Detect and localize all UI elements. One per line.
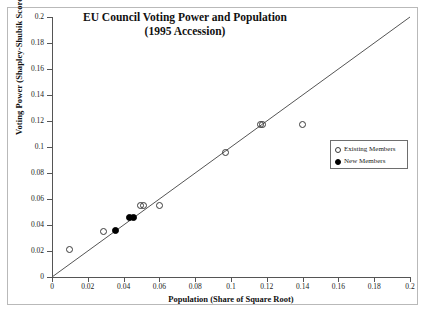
open-circle-icon	[335, 147, 341, 153]
legend-item-existing-members: Existing Members	[335, 144, 407, 155]
legend-label-existing-members: Existing Members	[344, 146, 396, 153]
legend-label-new-members: New Members	[344, 158, 385, 165]
filled-circle-icon	[335, 159, 341, 165]
chart-figure: EU Council Voting Power and Population (…	[0, 0, 425, 321]
data-point-existing-member	[140, 202, 147, 209]
legend-item-new-members: New Members	[335, 156, 407, 167]
data-point-existing-member	[156, 202, 163, 209]
chart-legend: Existing Members New Members	[330, 140, 408, 169]
